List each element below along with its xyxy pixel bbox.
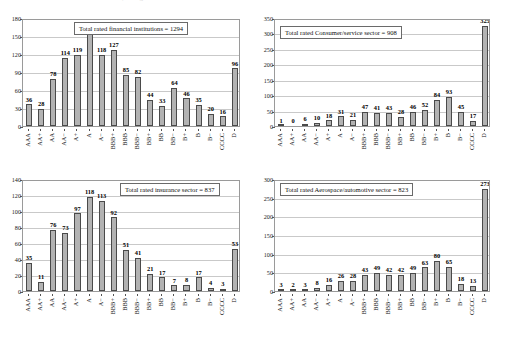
bar[interactable] [147,100,153,126]
bar[interactable] [171,285,177,291]
bar[interactable] [278,289,284,291]
bar-slot[interactable]: 18 [458,180,464,291]
bar[interactable] [386,113,392,126]
bar-slot[interactable]: 85 [123,19,129,126]
bar[interactable] [26,263,32,291]
bar-slot[interactable]: 51 [123,180,129,291]
bar[interactable] [38,282,44,291]
bar-slot[interactable]: 119 [74,19,80,126]
bar-slot[interactable]: 7 [171,180,177,291]
bar-slot[interactable]: 44 [147,19,153,126]
bar[interactable] [123,75,129,126]
bar-slot[interactable]: 65 [446,180,452,291]
bar-slot[interactable]: 3 [220,180,226,291]
bar-slot[interactable]: 93 [446,19,452,126]
bar-slot[interactable]: 2 [290,180,296,291]
bar-slot[interactable]: 80 [434,180,440,291]
bar[interactable] [446,97,452,126]
bar[interactable] [410,273,416,291]
bar[interactable] [470,121,476,126]
bar[interactable] [314,288,320,291]
bar-slot[interactable]: 96 [232,19,238,126]
bar[interactable] [220,289,226,291]
bar[interactable] [410,112,416,126]
bar-slot[interactable]: 16 [220,19,226,126]
bar-slot[interactable]: 28 [350,180,356,291]
bar-slot[interactable]: 153 [87,19,93,126]
bar-slot[interactable]: 36 [26,19,32,126]
bar-slot[interactable]: 21 [147,180,153,291]
bar-slot[interactable]: 84 [434,19,440,126]
bar[interactable] [62,233,68,291]
bar-slot[interactable]: 33 [159,19,165,126]
bar-slot[interactable]: 82 [135,19,141,126]
bar-slot[interactable]: 49 [410,180,416,291]
bar-slot[interactable]: 17 [470,19,476,126]
bar-slot[interactable]: 63 [422,180,428,291]
bar[interactable] [350,120,356,126]
bar-slot[interactable]: 114 [62,19,68,126]
bar-slot[interactable]: 17 [159,180,165,291]
bar[interactable] [87,197,93,291]
bar[interactable] [362,112,368,127]
bar-slot[interactable]: 28 [38,19,44,126]
bar-slot[interactable]: 35 [196,19,202,126]
bar-slot[interactable]: 46 [410,19,416,126]
bar[interactable] [62,58,68,126]
bar[interactable] [398,117,404,126]
bar-slot[interactable]: 42 [386,180,392,291]
bar-slot[interactable]: 73 [62,180,68,291]
bar[interactable] [362,275,368,291]
bar[interactable] [458,112,464,126]
bar-slot[interactable]: 118 [99,19,105,126]
bar-slot[interactable]: 16 [326,180,332,291]
bar-slot[interactable]: 113 [99,180,105,291]
bar-slot[interactable]: 43 [362,180,368,291]
bar[interactable] [326,285,332,291]
bar[interactable] [38,109,44,126]
bar[interactable] [111,50,117,126]
bar[interactable] [196,105,202,126]
bar-slot[interactable]: 41 [135,180,141,291]
bar[interactable] [196,277,202,291]
bar[interactable] [232,68,238,126]
bar[interactable] [338,116,344,126]
bar[interactable] [87,34,93,126]
bar[interactable] [314,123,320,126]
bar[interactable] [232,249,238,291]
bar-slot[interactable]: 42 [398,180,404,291]
bar[interactable] [183,98,189,126]
bar[interactable] [302,124,308,126]
bar[interactable] [458,284,464,291]
bar-slot[interactable]: 273 [482,180,488,291]
bar[interactable] [386,275,392,291]
bar[interactable] [50,230,56,291]
bar[interactable] [398,275,404,291]
bar-slot[interactable]: 35 [26,180,32,291]
bar-slot[interactable]: 76 [50,180,56,291]
bar-slot[interactable]: 45 [458,19,464,126]
bar[interactable] [302,289,308,291]
bar[interactable] [147,274,153,291]
bar[interactable] [99,201,105,291]
bar[interactable] [326,120,332,126]
bar[interactable] [159,277,165,291]
bar-slot[interactable]: 8 [314,180,320,291]
bar[interactable] [338,281,344,291]
bar[interactable] [482,26,488,126]
bar[interactable] [135,77,141,126]
bar-slot[interactable]: 46 [183,19,189,126]
bar[interactable] [171,88,177,126]
bar[interactable] [26,104,32,126]
bar[interactable] [50,79,56,126]
bar[interactable] [220,116,226,126]
bar[interactable] [278,124,284,126]
bar-slot[interactable]: 97 [74,180,80,291]
bar[interactable] [446,267,452,291]
bar[interactable] [123,250,129,291]
bar-slot[interactable]: 118 [87,180,93,291]
bar-slot[interactable]: 26 [338,180,344,291]
bar-slot[interactable]: 325 [482,19,488,126]
bar[interactable] [422,267,428,291]
bar-slot[interactable]: 3 [302,180,308,291]
